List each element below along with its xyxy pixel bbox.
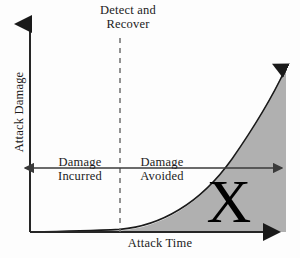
attack-damage-figure: Detect andRecover Attack Damage Attack T… — [0, 0, 300, 258]
detect-and-recover-label: Detect andRecover — [72, 3, 184, 31]
region-mark-x: X — [200, 170, 258, 232]
detect-and-recover-line1: Detect and — [100, 3, 156, 17]
damage-incurred-line1: Damage — [59, 155, 102, 169]
damage-avoided-line1: Damage — [141, 155, 184, 169]
damage-avoided-label: DamageAvoided — [126, 155, 198, 183]
y-axis-label: Attack Damage — [12, 57, 26, 167]
damage-incurred-label: DamageIncurred — [44, 155, 116, 183]
damage-incurred-line2: Incurred — [58, 169, 102, 183]
x-axis-label: Attack Time — [95, 236, 225, 250]
detect-and-recover-line2: Recover — [106, 17, 149, 31]
damage-avoided-line2: Avoided — [140, 169, 184, 183]
